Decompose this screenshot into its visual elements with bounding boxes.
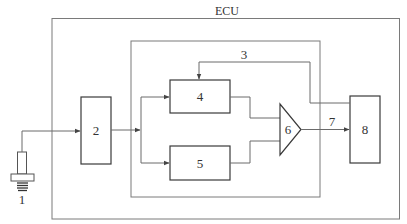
comparator-label: 6: [285, 122, 292, 137]
block-5-label: 5: [197, 156, 204, 171]
block5-output-wire: [230, 141, 280, 163]
block-4-label: 4: [197, 89, 204, 104]
feedback-label: 3: [241, 47, 248, 62]
sensor-label: 1: [19, 192, 26, 207]
sensor-icon: [11, 152, 34, 191]
block-8-label: 8: [362, 122, 369, 137]
block4-output-wire: [230, 97, 280, 118]
ecu-block-diagram: ECU 1 2 4 5 6 7 8 3: [0, 0, 407, 224]
signal-label: 7: [329, 114, 336, 129]
ecu-title: ECU: [215, 4, 239, 18]
block-2-label: 2: [93, 123, 100, 138]
sensor-signal-wire: [22, 131, 80, 152]
